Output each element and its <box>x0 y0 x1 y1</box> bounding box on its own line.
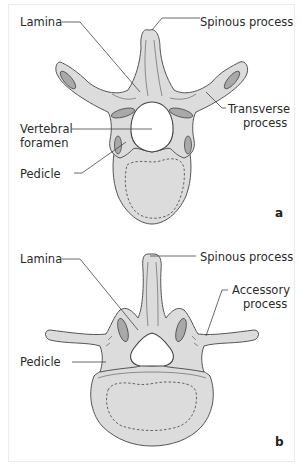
label-accessory-process-b-1: Accessory <box>232 283 290 297</box>
label-vertebral-foramen-a-1: Vertebral <box>20 122 73 136</box>
label-accessory-process-b-2: process <box>243 297 287 311</box>
leader-spinous-a <box>152 18 200 30</box>
costal-demifacet-left <box>115 136 122 154</box>
label-spinous-process-b: Spinous process <box>200 250 293 264</box>
panel-a-thoracic-vertebra: Lamina Spinous process Transverse proces… <box>20 15 293 224</box>
label-transverse-process-a-2: process <box>243 116 287 130</box>
label-lamina-b: Lamina <box>20 252 62 266</box>
vertebral-body-b <box>91 365 214 446</box>
vertebral-foramen-hole-a <box>131 102 173 152</box>
panel-label-a: a <box>275 206 283 220</box>
caption-fragment <box>8 466 295 471</box>
label-transverse-process-a-1: Transverse <box>227 102 290 116</box>
label-pedicle-a: Pedicle <box>20 167 61 181</box>
panel-b-lumbar-vertebra: Lamina Spinous process Accessory process… <box>20 250 293 449</box>
label-vertebral-foramen-a-2: foramen <box>20 136 68 150</box>
costal-demifacet-right <box>185 136 192 154</box>
leader-accessory-b <box>206 290 228 336</box>
label-lamina-a: Lamina <box>20 15 62 29</box>
vertebral-body-a <box>113 148 191 224</box>
label-pedicle-b: Pedicle <box>20 355 61 369</box>
vertebrae-diagram: Lamina Spinous process Transverse proces… <box>0 0 300 473</box>
panel-label-b: b <box>275 435 284 449</box>
label-spinous-process-a: Spinous process <box>200 15 293 29</box>
